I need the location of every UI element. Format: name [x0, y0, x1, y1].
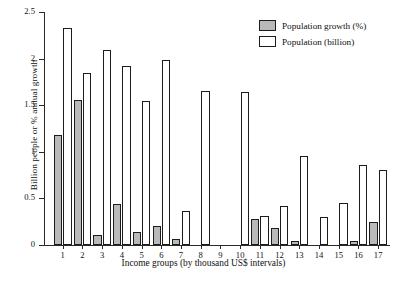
- bar-population-growth: [172, 239, 180, 245]
- bar-population-growth: [133, 232, 141, 245]
- y-axis-tick-label: 2: [31, 53, 35, 63]
- population-income-bar-chart: Billion people or % annual growth 00.511…: [0, 0, 407, 284]
- x-axis-tick: [260, 245, 261, 249]
- bar-population: [201, 91, 209, 245]
- x-axis-tick: [220, 245, 221, 249]
- x-axis-tick: [161, 245, 162, 249]
- bar-population: [142, 101, 150, 245]
- bar-population: [63, 28, 71, 245]
- bar-population: [300, 156, 308, 245]
- y-axis-tick: 2: [39, 59, 45, 60]
- y-axis-line: [44, 12, 45, 245]
- bar-population-growth: [153, 226, 161, 245]
- y-axis-tick-label: 2.5: [24, 6, 35, 16]
- y-axis-tick-label: 1.5: [24, 99, 35, 109]
- bar-population: [359, 165, 367, 245]
- bar-population: [379, 170, 387, 245]
- x-axis-title: Income groups (by thousand US$ intervals…: [0, 258, 407, 268]
- y-axis-tick-label: 1: [31, 146, 35, 156]
- x-axis-tick: [299, 245, 300, 249]
- bar-population: [260, 216, 268, 245]
- bar-population-growth: [350, 241, 358, 245]
- bar-population: [103, 50, 111, 245]
- y-axis-tick-label: 0.5: [24, 192, 35, 202]
- bar-population-growth: [369, 222, 377, 245]
- bar-population: [83, 73, 91, 245]
- x-axis-tick: [142, 245, 143, 249]
- x-axis-tick: [63, 245, 64, 249]
- x-axis-tick: [280, 245, 281, 249]
- bar-population-growth: [271, 228, 279, 245]
- x-axis-tick: [181, 245, 182, 249]
- x-axis-tick: [201, 245, 202, 249]
- bar-population: [280, 206, 288, 245]
- x-axis-tick: [378, 245, 379, 249]
- x-axis-tick: [358, 245, 359, 249]
- legend-swatch-icon: [259, 20, 276, 31]
- x-axis-tick: [82, 245, 83, 249]
- y-axis-tick-label: 0: [31, 239, 35, 249]
- bar-population-growth: [251, 219, 259, 245]
- bar-population: [122, 66, 130, 245]
- y-axis-tick: 2.5: [39, 12, 45, 13]
- y-axis-tick: 1.5: [39, 105, 45, 106]
- legend-item: Population (billion): [259, 36, 366, 47]
- x-axis-tick: [122, 245, 123, 249]
- bar-population: [162, 60, 170, 245]
- legend-item-label: Population growth (%): [282, 21, 366, 31]
- bar-population: [320, 217, 328, 245]
- x-axis-tick: [102, 245, 103, 249]
- bar-population-growth: [113, 204, 121, 245]
- bar-population-growth: [74, 100, 82, 245]
- x-axis-tick: [319, 245, 320, 249]
- bar-population-growth: [93, 235, 101, 245]
- x-axis-tick: [240, 245, 241, 249]
- bar-population: [339, 203, 347, 245]
- legend-item: Population growth (%): [259, 20, 366, 31]
- bar-population: [182, 211, 190, 245]
- legend-item-label: Population (billion): [282, 37, 354, 47]
- y-axis-tick: 0: [39, 245, 45, 246]
- bar-population: [241, 92, 249, 245]
- bar-population-growth: [54, 135, 62, 245]
- bar-population-growth: [291, 241, 299, 245]
- y-axis-tick: 1: [39, 152, 45, 153]
- y-axis-tick: 0.5: [39, 198, 45, 199]
- chart-legend: Population growth (%)Population (billion…: [259, 20, 366, 47]
- x-axis-tick: [339, 245, 340, 249]
- legend-swatch-icon: [259, 36, 276, 47]
